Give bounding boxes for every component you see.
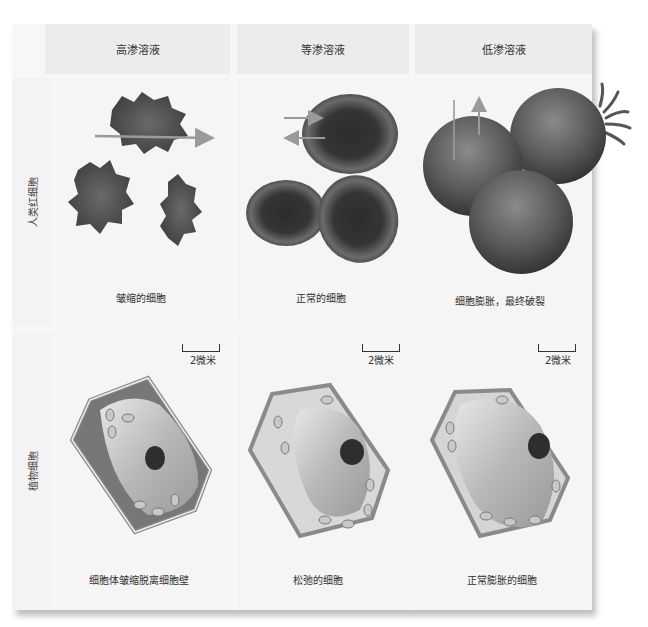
- normal-rbc-group: [246, 94, 408, 272]
- swollen-rbc: [510, 88, 606, 184]
- nucleus: [528, 433, 550, 459]
- caption-normal: 正常的细胞: [296, 290, 346, 305]
- scale-label: 2微米: [545, 352, 571, 367]
- caption-turgid: 正常膨胀的细胞: [467, 572, 537, 587]
- swollen-rbc-group: [423, 84, 630, 274]
- scale-label: 2微米: [368, 352, 394, 367]
- normal-rbc: [302, 94, 398, 174]
- plant-cell-turgid: [432, 390, 568, 536]
- caption-plasmolyzed: 细胞体皱缩脱离细胞壁: [89, 572, 189, 587]
- caption-crenated: 皱缩的细胞: [116, 290, 166, 305]
- illustrations: [0, 0, 648, 627]
- scale-bar: [182, 344, 220, 352]
- plant-cell-flaccid: [250, 385, 388, 536]
- scale-bar: [538, 344, 576, 352]
- nucleus: [340, 439, 364, 465]
- crenated-rbc-group: [68, 92, 210, 246]
- arrow-water-out-icon: [95, 136, 210, 138]
- swollen-rbc: [469, 170, 573, 274]
- crenated-rbc: [110, 92, 188, 154]
- crenated-rbc: [68, 160, 134, 234]
- nucleus: [145, 446, 165, 470]
- plant-cell-plasmolyzed: [72, 378, 210, 532]
- normal-rbc: [308, 166, 408, 272]
- normal-rbc: [246, 180, 326, 246]
- crenated-rbc: [160, 174, 202, 246]
- caption-lysed: 细胞膨胀，最终破裂: [455, 293, 545, 308]
- caption-flaccid: 松弛的细胞: [293, 572, 343, 587]
- scale-label: 2微米: [190, 352, 216, 367]
- scale-bar: [362, 344, 400, 352]
